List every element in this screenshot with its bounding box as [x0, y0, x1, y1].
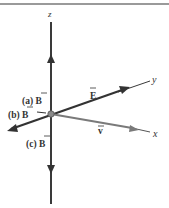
field-vectors-diagram: z y x (a) B (b) B (c) B E v — [0, 0, 169, 208]
x-axis-label: x — [152, 128, 158, 139]
v-vector-line — [51, 114, 132, 128]
b-field-a-arrowhead-icon — [47, 54, 55, 63]
e-vector-label: E — [90, 91, 96, 101]
v-vector-arrowhead-icon — [129, 125, 139, 132]
b-field-c-arrowhead-icon — [47, 165, 55, 174]
b-field-b-label: (b) B — [8, 110, 29, 121]
b-field-b-arrowhead-icon — [7, 124, 18, 132]
y-axis-label: y — [151, 74, 157, 85]
b-label-leader — [37, 112, 46, 113]
z-axis-label: z — [47, 9, 52, 19]
v-vector-label: v — [98, 126, 103, 136]
origin-point — [48, 111, 54, 117]
b-field-a-label: (a) B — [22, 96, 42, 107]
e-vector-arrowhead-icon — [119, 86, 130, 94]
b-field-c-label: (c) B — [26, 139, 46, 150]
